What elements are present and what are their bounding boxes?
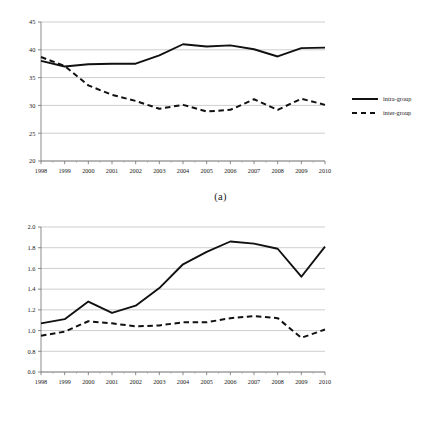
- x-axis-tick-label: 2002: [129, 167, 141, 174]
- legend-swatch-solid-icon: [352, 95, 378, 103]
- y-axis-tick-label: 45: [29, 18, 35, 25]
- chart-panel-b: 0.60.81.01.21.41.61.82.01998199920002001…: [0, 214, 441, 428]
- y-axis-tick-label: 35: [29, 74, 35, 81]
- x-axis-tick-label: 1998: [35, 378, 47, 385]
- x-axis-tick-label: 2002: [129, 378, 141, 385]
- y-axis-tick-label: 1.4: [28, 285, 37, 292]
- y-axis-tick-label: 30: [29, 102, 35, 109]
- x-axis-tick-label: 2000: [82, 167, 94, 174]
- x-axis-tick-label: 2008: [271, 378, 283, 385]
- y-axis-tick-label: 0.8: [28, 348, 36, 355]
- x-axis-tick-label: 2003: [153, 378, 165, 385]
- x-axis-tick-label: 2003: [153, 167, 165, 174]
- x-axis-tick-label: 2007: [248, 167, 260, 174]
- panel-caption-a: (a): [0, 191, 441, 202]
- x-axis-tick-label: 2005: [200, 167, 212, 174]
- y-axis-tick-label: 25: [29, 130, 35, 137]
- y-axis-tick-label: 1.6: [28, 265, 36, 272]
- series-line-inter-group: [41, 316, 325, 338]
- x-axis-tick-label: 2004: [177, 167, 189, 174]
- x-axis-tick-label: 1998: [35, 167, 47, 174]
- legend-label-inter-group: inter-group: [383, 110, 411, 116]
- legend-label-intra-group: intra-group: [383, 96, 411, 102]
- x-axis-tick-label: 2007: [248, 378, 260, 385]
- series-line-intra-group: [41, 44, 325, 66]
- y-axis-tick-label: 1.2: [28, 306, 36, 313]
- x-axis-tick-label: 2005: [200, 378, 212, 385]
- legend-item-inter-group: inter-group: [352, 106, 411, 120]
- chart-legend-a: intra-group inter-group: [352, 92, 411, 120]
- legend-swatch-dashed-icon: [352, 109, 378, 117]
- x-axis-tick-label: 2004: [177, 378, 189, 385]
- line-chart-b: 0.60.81.01.21.41.61.82.01998199920002001…: [0, 214, 441, 402]
- y-axis-tick-label: 1.0: [28, 327, 36, 334]
- x-axis-tick-label: 2001: [106, 167, 118, 174]
- x-axis-tick-label: 2001: [106, 378, 118, 385]
- x-axis-tick-label: 2009: [295, 378, 307, 385]
- x-axis-tick-label: 2010: [319, 378, 331, 385]
- chart-panel-a: 2025303540451998199920002001200220032004…: [0, 0, 441, 214]
- x-axis-tick-label: 1999: [58, 167, 70, 174]
- x-axis-tick-label: 2006: [224, 167, 236, 174]
- y-axis-tick-label: 40: [29, 46, 35, 53]
- series-line-intra-group: [41, 242, 325, 324]
- y-axis-tick-label: 2.0: [28, 223, 36, 230]
- y-axis-tick-label: 0.6: [28, 368, 36, 375]
- x-axis-tick-label: 2008: [271, 167, 283, 174]
- legend-item-intra-group: intra-group: [352, 92, 411, 106]
- x-axis-tick-label: 1999: [58, 378, 70, 385]
- x-axis-tick-label: 2006: [224, 378, 236, 385]
- y-axis-tick-label: 1.8: [28, 244, 36, 251]
- figure-container: 2025303540451998199920002001200220032004…: [0, 0, 441, 428]
- x-axis-tick-label: 2000: [82, 378, 94, 385]
- x-axis-tick-label: 2010: [319, 167, 331, 174]
- y-axis-tick-label: 20: [29, 157, 35, 164]
- x-axis-tick-label: 2009: [295, 167, 307, 174]
